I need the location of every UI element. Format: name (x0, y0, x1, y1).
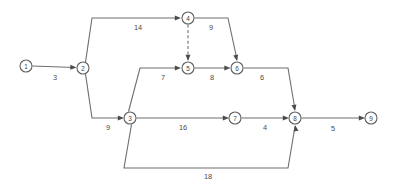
node-label-7: 7 (233, 115, 237, 122)
arrowhead-e1-2 (70, 65, 76, 70)
edge-3-to-5 (129, 68, 179, 112)
node-label-8: 8 (293, 115, 297, 122)
edge-weight-2-4: 14 (134, 23, 142, 32)
node-2[interactable]: 2 (77, 62, 89, 74)
edge-2-to-3 (86, 74, 122, 118)
node-6[interactable]: 6 (231, 62, 243, 74)
edge-weight-3-8: 18 (204, 172, 212, 181)
edge-weight-7-8: 4 (263, 123, 267, 132)
network-diagram-canvas: 31499786164185 123456789 (0, 0, 393, 193)
node-label-2: 2 (81, 65, 85, 72)
arrowhead-e8-9 (359, 116, 365, 121)
node-5[interactable]: 5 (182, 62, 194, 74)
node-3[interactable]: 3 (124, 112, 136, 124)
node-label-9: 9 (369, 115, 373, 122)
arrowhead-e3-8 (293, 125, 299, 132)
node-label-6: 6 (235, 65, 239, 72)
edges-layer (33, 18, 363, 168)
arrowhead-e3-5 (175, 66, 181, 71)
edge-weight-3-7: 16 (179, 123, 187, 132)
edge-weight-5-6: 8 (210, 73, 214, 82)
node-label-5: 5 (186, 65, 190, 72)
node-label-1: 1 (24, 63, 28, 70)
edge-2-to-4 (86, 18, 179, 62)
edge-weight-2-3: 9 (106, 123, 110, 132)
node-9[interactable]: 9 (365, 112, 377, 124)
node-label-3: 3 (128, 115, 132, 122)
edge-4-to-6 (195, 18, 238, 60)
arrowhead-e4-5 (186, 55, 191, 61)
node-label-4: 4 (186, 15, 190, 22)
edge-weight-3-5: 7 (161, 73, 165, 82)
edge-weight-1-2: 3 (53, 73, 57, 82)
node-8[interactable]: 8 (289, 112, 301, 124)
edge-3-to-8 (124, 125, 295, 169)
edge-weight-4-6: 9 (209, 23, 213, 32)
arrowheads-layer (70, 16, 365, 132)
arrowhead-e3-7 (223, 116, 229, 121)
edge-weight-8-9: 5 (331, 124, 335, 133)
edge-weight-6-8: 6 (260, 73, 264, 82)
arrowhead-e7-8 (283, 116, 289, 121)
node-4[interactable]: 4 (182, 12, 194, 24)
arrowhead-e2-3 (118, 116, 124, 121)
network-diagram: 31499786164185 123456789 (0, 0, 393, 193)
node-1[interactable]: 1 (20, 60, 32, 72)
arrowhead-e4-6 (233, 54, 239, 61)
arrowhead-e6-8 (291, 104, 297, 111)
edge-labels-layer: 31499786164185 (53, 23, 335, 181)
edge-1-to-2 (33, 66, 75, 68)
edge-6-to-8 (244, 68, 296, 110)
arrowhead-e5-6 (224, 66, 230, 71)
arrowhead-e2-4 (175, 16, 181, 21)
node-7[interactable]: 7 (229, 112, 241, 124)
